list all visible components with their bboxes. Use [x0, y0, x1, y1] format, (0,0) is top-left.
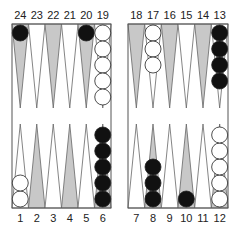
point-label: 16	[164, 9, 176, 21]
black-checker[interactable]	[178, 191, 194, 207]
white-checker[interactable]	[95, 73, 111, 89]
white-checker[interactable]	[12, 191, 28, 207]
white-checker[interactable]	[95, 57, 111, 73]
board-points	[12, 24, 228, 208]
point-label: 6	[100, 212, 106, 224]
top-point-labels: 242322212019181716151413	[14, 9, 226, 21]
point-label: 17	[147, 9, 159, 21]
black-checker[interactable]	[95, 175, 111, 191]
black-checker[interactable]	[212, 25, 228, 41]
point-3[interactable]	[45, 124, 62, 208]
point-label: 20	[80, 9, 92, 21]
point-label: 14	[197, 9, 209, 21]
point-18[interactable]	[128, 24, 145, 108]
point-label: 12	[214, 212, 226, 224]
white-checker[interactable]	[145, 25, 161, 41]
black-checker[interactable]	[95, 159, 111, 175]
point-label: 18	[130, 9, 142, 21]
black-checker[interactable]	[95, 127, 111, 143]
white-checker[interactable]	[212, 159, 228, 175]
black-checker[interactable]	[145, 159, 161, 175]
white-checker[interactable]	[212, 143, 228, 159]
white-checker[interactable]	[212, 191, 228, 207]
black-checker[interactable]	[95, 143, 111, 159]
black-checker[interactable]	[95, 191, 111, 207]
black-checker[interactable]	[12, 25, 28, 41]
white-checker[interactable]	[95, 41, 111, 57]
point-label: 15	[180, 9, 192, 21]
black-checker[interactable]	[145, 175, 161, 191]
point-label: 21	[64, 9, 76, 21]
white-checker[interactable]	[145, 57, 161, 73]
black-checker[interactable]	[212, 73, 228, 89]
point-11[interactable]	[195, 124, 212, 208]
point-label: 2	[34, 212, 40, 224]
point-label: 24	[14, 9, 26, 21]
point-16[interactable]	[161, 24, 178, 108]
point-label: 11	[197, 212, 208, 224]
black-checker[interactable]	[212, 41, 228, 57]
point-label: 4	[67, 212, 73, 224]
point-5[interactable]	[78, 124, 95, 208]
backgammon-board: 242322212019181716151413 123456789101112	[0, 0, 238, 232]
point-label: 8	[150, 212, 156, 224]
black-checker[interactable]	[78, 25, 94, 41]
point-label: 3	[50, 212, 56, 224]
point-15[interactable]	[178, 24, 195, 108]
white-checker[interactable]	[95, 25, 111, 41]
point-label: 9	[167, 212, 173, 224]
point-label: 1	[17, 212, 23, 224]
white-checker[interactable]	[212, 127, 228, 143]
black-checker[interactable]	[212, 57, 228, 73]
point-4[interactable]	[62, 124, 79, 208]
white-checker[interactable]	[95, 89, 111, 105]
point-9[interactable]	[161, 124, 178, 208]
black-checker[interactable]	[145, 191, 161, 207]
checkers	[12, 25, 227, 207]
point-label: 7	[133, 212, 139, 224]
white-checker[interactable]	[145, 41, 161, 57]
white-checker[interactable]	[12, 175, 28, 191]
point-14[interactable]	[195, 24, 212, 108]
point-label: 5	[83, 212, 89, 224]
white-checker[interactable]	[212, 175, 228, 191]
point-label: 13	[214, 9, 226, 21]
point-label: 19	[97, 9, 109, 21]
point-label: 22	[47, 9, 59, 21]
point-label: 23	[31, 9, 43, 21]
point-label: 10	[180, 212, 192, 224]
point-21[interactable]	[62, 24, 79, 108]
point-2[interactable]	[29, 124, 46, 208]
bottom-point-labels: 123456789101112	[17, 212, 226, 224]
point-23[interactable]	[29, 24, 46, 108]
point-7[interactable]	[128, 124, 145, 208]
point-22[interactable]	[45, 24, 62, 108]
